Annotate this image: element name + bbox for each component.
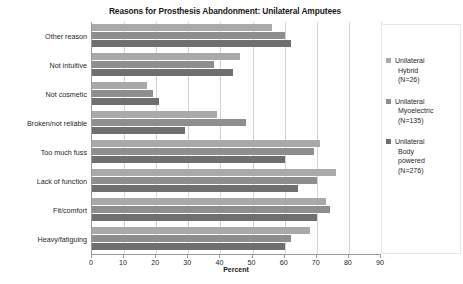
y-axis-labels: Other reasonNot intuitiveNot cosmeticBro… — [0, 22, 87, 254]
bar — [92, 214, 317, 221]
legend-label-line: (N=135) — [395, 116, 462, 126]
bar — [92, 206, 330, 213]
bar — [92, 24, 272, 31]
bar-group — [92, 51, 381, 80]
bar — [92, 235, 291, 242]
bar — [92, 127, 185, 134]
y-axis-label: Fit/comfort — [1, 206, 87, 215]
bar — [92, 111, 217, 118]
y-axis-label: Broken/not reliable — [1, 119, 87, 128]
legend-swatch — [386, 139, 391, 144]
bar-group — [92, 225, 381, 254]
x-axis-title: Percent — [91, 266, 381, 273]
legend-label-line: (N=276) — [395, 166, 462, 176]
legend-label-line: Body — [395, 147, 462, 157]
legend-swatch — [386, 58, 391, 63]
legend-label-line: (N=26) — [395, 75, 462, 85]
legend-label-line: Hybrid — [395, 66, 462, 76]
bar — [92, 90, 153, 97]
bar-group — [92, 138, 381, 167]
legend-label-line: Unilateral — [395, 137, 462, 147]
bar-group — [92, 109, 381, 138]
y-axis-label: Not cosmetic — [1, 90, 87, 99]
y-axis-label: Lack of function — [1, 177, 87, 186]
bar — [92, 98, 159, 105]
bar — [92, 82, 147, 89]
chart-container: Reasons for Prosthesis Abandonment: Unil… — [0, 0, 463, 284]
bar-group — [92, 80, 381, 109]
legend-label-line: powered — [395, 156, 462, 166]
legend-item[interactable]: UnilateralBodypowered(N=276) — [386, 137, 462, 175]
bar — [92, 148, 314, 155]
y-axis-label: Other reason — [1, 32, 87, 41]
bar — [92, 40, 291, 47]
bar — [92, 156, 285, 163]
bar — [92, 69, 233, 76]
y-axis-label: Too much fuss — [1, 148, 87, 157]
legend-item[interactable]: UnilateralMyoelectric(N=135) — [386, 97, 462, 126]
legend-label-line: Unilateral — [395, 97, 462, 107]
y-axis-label: Not intuitive — [1, 61, 87, 70]
legend-swatch — [386, 99, 391, 104]
legend-label-line: Myoelectric — [395, 106, 462, 116]
y-axis-label: Heavy/fatiguing — [1, 235, 87, 244]
legend-item[interactable]: UnilateralHybrid(N=26) — [386, 56, 462, 85]
bar — [92, 53, 240, 60]
bar — [92, 177, 317, 184]
bar-group — [92, 22, 381, 51]
bar-group — [92, 196, 381, 225]
bar — [92, 140, 320, 147]
bar — [92, 227, 310, 234]
bar — [92, 185, 298, 192]
chart-title: Reasons for Prosthesis Abandonment: Unil… — [60, 6, 390, 16]
chart-legend: UnilateralHybrid(N=26)UnilateralMyoelect… — [386, 56, 462, 187]
bar — [92, 61, 214, 68]
bar — [92, 32, 285, 39]
bar-group — [92, 167, 381, 196]
plot-area — [91, 22, 381, 255]
legend-label-line: Unilateral — [395, 56, 462, 66]
bar — [92, 119, 246, 126]
bar — [92, 169, 336, 176]
bar — [92, 243, 285, 250]
bar — [92, 198, 326, 205]
